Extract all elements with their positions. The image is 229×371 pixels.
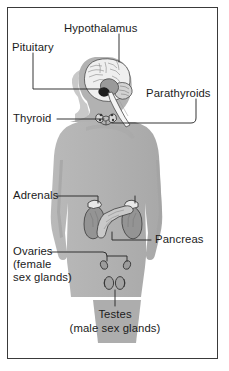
label-parathyroids: Parathyroids xyxy=(146,87,211,100)
label-hypothalamus: Hypothalamus xyxy=(64,22,137,35)
label-testes-line1: Testes xyxy=(85,308,145,321)
label-testes-line2: (male sex glands) xyxy=(55,322,175,335)
label-adrenals: Adrenals xyxy=(13,189,58,202)
label-pancreas: Pancreas xyxy=(155,233,204,246)
label-ovaries-line3: sex glands) xyxy=(13,271,72,284)
endocrine-system-figure: Hypothalamus Pituitary Parathyroids Thyr… xyxy=(0,0,229,371)
label-thyroid: Thyroid xyxy=(13,112,51,125)
label-pituitary: Pituitary xyxy=(12,41,54,54)
label-ovaries-line1: Ovaries xyxy=(13,245,53,258)
label-ovaries-line2: (female xyxy=(13,258,51,271)
